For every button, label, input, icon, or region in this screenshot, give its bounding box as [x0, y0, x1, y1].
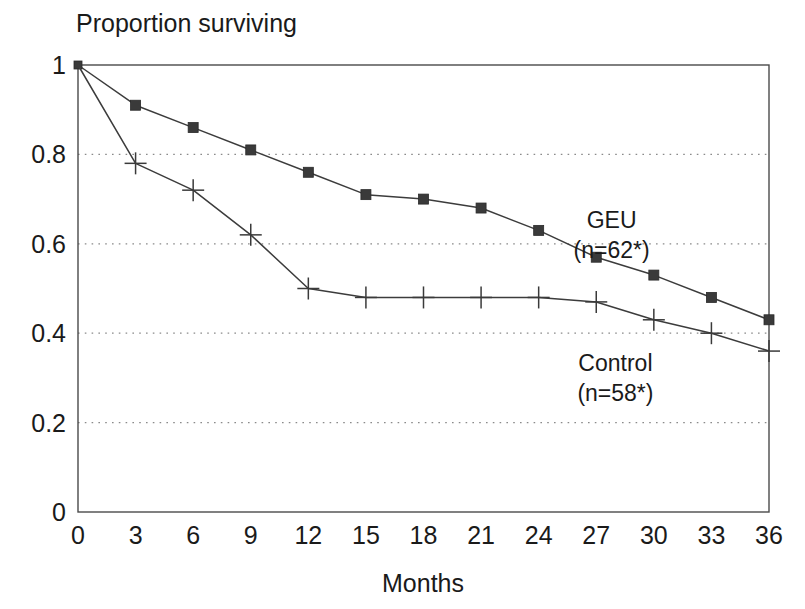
survival-plot-svg: Proportion surviving 00.20.40.60.81 0369…: [0, 0, 805, 609]
survival-chart: Proportion surviving 00.20.40.60.81 0369…: [0, 0, 805, 609]
annotation-label-count: (n=58*): [577, 380, 653, 406]
data-point-marker: [361, 190, 371, 200]
data-point-marker: [534, 225, 544, 235]
x-tick-label: 18: [410, 521, 438, 549]
data-point-marker: [649, 270, 659, 280]
annotation-label-name: Control: [578, 350, 652, 376]
data-point-marker: [246, 145, 256, 155]
x-tick-label: 3: [129, 521, 143, 549]
x-tick-label: 9: [244, 521, 258, 549]
data-point-marker: [706, 292, 716, 302]
y-tick-label: 0: [52, 498, 66, 526]
y-tick-label: 0.6: [31, 230, 66, 258]
x-tick-label: 0: [71, 521, 85, 549]
data-point-marker: [188, 123, 198, 133]
y-tick-label: 0.8: [31, 140, 66, 168]
data-point-marker: [764, 315, 774, 325]
annotation-label-count: (n=62*): [574, 237, 650, 263]
chart-background: [0, 0, 805, 609]
page-title: Proportion surviving: [76, 9, 297, 37]
data-point-marker: [476, 203, 486, 213]
x-tick-label: 33: [698, 521, 726, 549]
y-tick-label: 0.2: [31, 409, 66, 437]
x-tick-label: 24: [525, 521, 553, 549]
y-tick-label: 1: [52, 51, 66, 79]
x-tick-label: 21: [467, 521, 495, 549]
x-tick-label: 6: [186, 521, 200, 549]
x-tick-label: 12: [294, 521, 322, 549]
data-point-marker: [303, 167, 313, 177]
x-axis-title: Months: [382, 569, 464, 597]
x-tick-label: 36: [755, 521, 783, 549]
annotation-label-name: GEU: [587, 207, 637, 233]
x-tick-label: 30: [640, 521, 668, 549]
data-point-marker: [131, 100, 141, 110]
data-point-marker: [419, 194, 429, 204]
x-tick-label: 27: [582, 521, 610, 549]
y-tick-label: 0.4: [31, 319, 66, 347]
x-tick-label: 15: [352, 521, 380, 549]
